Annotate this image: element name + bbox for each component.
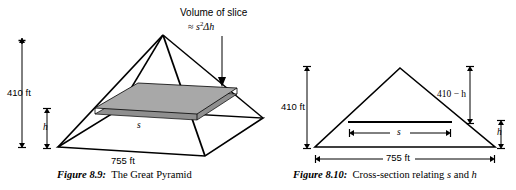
textbook-figure-pair: Volume of slice ≈ s2Δh 410 ft h s 755 ft… (0, 0, 516, 190)
figure-8-10-caption-and: and (454, 169, 469, 180)
formula-delta-h: Δh (203, 21, 214, 32)
cross-upper-height-dimension (466, 66, 474, 124)
cross-height-label: 410 ft (281, 102, 305, 112)
slice-volume-annotation-line1: Volume of slice (180, 8, 247, 18)
figure-8-9-caption-label: Figure 8.9: (57, 169, 106, 180)
cross-slice-side-label: s (397, 128, 401, 138)
slice-callout-arrow (218, 36, 226, 87)
cross-section-drawing (303, 66, 505, 164)
pyramid-height-label: 410 ft (7, 88, 31, 98)
figure-8-10-caption-label: Figure 8.10: (293, 169, 347, 180)
pyramid-slice-top-face (95, 83, 237, 114)
pyramid-base-label: 755 ft (111, 156, 135, 166)
figure-8-10-caption-text: Cross-section relating (353, 169, 445, 180)
pyramid-slice-height-label: h (43, 123, 48, 133)
figure-8-9-caption: Figure 8.9: The Great Pyramid (57, 170, 192, 181)
pyramid-slice-side-label: s (137, 121, 141, 131)
cross-base-label: 755 ft (386, 153, 410, 163)
pyramid-3d-drawing (18, 35, 263, 156)
cross-slice-height-label: h (497, 128, 502, 138)
cross-upper-height-label: 410 − h (437, 90, 466, 100)
slice-volume-annotation-formula: ≈ s2Δh (188, 22, 214, 32)
figure-8-9-caption-text: The Great Pyramid (111, 169, 191, 180)
figure-8-10-caption-h: h (472, 169, 477, 180)
figure-8-10-caption: Figure 8.10: Cross-section relating s an… (293, 170, 477, 181)
